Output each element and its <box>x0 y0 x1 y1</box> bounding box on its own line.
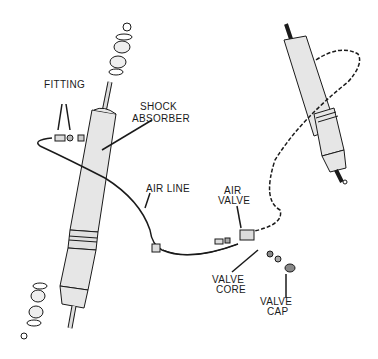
shock-absorber-diagram: FITTING SHOCK ABSORBER AIR LINE AIR VALV… <box>0 0 378 359</box>
left-shock-absorber <box>60 108 116 328</box>
left-upper-mount-hardware <box>109 23 132 75</box>
label-shock-absorber-line2: ABSORBER <box>132 114 190 124</box>
label-air-line: AIR LINE <box>146 184 190 194</box>
fittings <box>55 135 84 141</box>
label-valve-cap-line2: CAP <box>267 307 288 317</box>
air-valve <box>215 230 295 272</box>
diagram-artwork <box>0 0 378 359</box>
label-shock-absorber-line1: SHOCK <box>140 102 177 112</box>
right-shock-absorber <box>284 24 347 184</box>
left-lower-mount-hardware <box>21 283 47 339</box>
label-valve-core-line2: CORE <box>216 285 246 295</box>
label-fitting: FITTING <box>44 80 85 90</box>
air-line <box>38 138 238 255</box>
label-air-valve-line2: VALVE <box>218 196 250 206</box>
